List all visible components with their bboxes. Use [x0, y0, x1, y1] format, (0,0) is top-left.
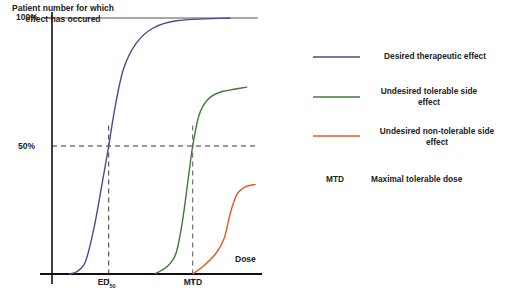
legend-key-mtd: MTD — [326, 174, 344, 185]
y-tick-label-100: 100% — [16, 12, 38, 22]
legend-label-undesired-non-tolerable-side-effect: Undesired non-tolerable side effect — [372, 126, 502, 148]
legend-label-maximal-tolerable-dose: Maximal tolerable dose — [371, 174, 462, 185]
y-tick-label-50: 50% — [18, 141, 35, 151]
chart: ED50 MTD Dose — [0, 0, 505, 296]
x-marker-label-mtd: MTD — [184, 277, 202, 287]
legend-label-undesired-tolerable-side-effect: Undesired tolerable side effect — [375, 86, 483, 108]
series-line-undesired-tolerable-side-effect — [155, 87, 247, 274]
x-marker-label-ed50: ED50 — [98, 277, 116, 289]
legend-label-desired-therapeutic-effect: Desired therapeutic effect — [375, 51, 495, 62]
x-axis-label: Dose — [235, 254, 256, 264]
